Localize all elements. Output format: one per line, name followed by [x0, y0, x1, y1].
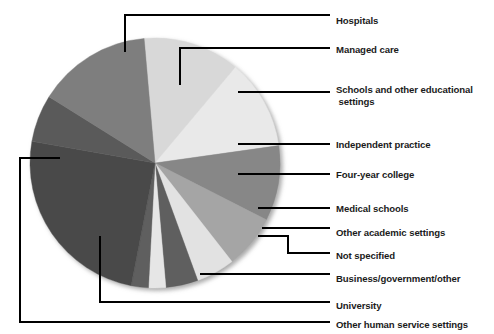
- callout-label-university: University: [336, 300, 381, 312]
- leader-not-specified: [258, 236, 330, 253]
- callout-label-business-government-other: Business/government/other: [336, 273, 460, 285]
- callout-label-managed-care: Managed care: [336, 44, 399, 56]
- callout-label-four-year-college: Four-year college: [336, 169, 414, 181]
- callout-label-other-human-service-settings: Other human service settings: [336, 319, 468, 331]
- callout-label-independent-practice: Independent practice: [336, 139, 431, 151]
- callout-label-medical-schools: Medical schools: [336, 203, 409, 215]
- callout-label-schools-line2: settings: [336, 96, 375, 108]
- pie-slices: [30, 38, 280, 288]
- pie-chart-figure: Hospitals Managed care Schools and other…: [0, 0, 494, 334]
- callout-label-other-academic-settings: Other academic settings: [336, 227, 445, 239]
- callout-label-not-specified: Not specified: [336, 250, 395, 262]
- callout-label-schools: Schools and other educational: [336, 84, 473, 96]
- callout-label-hospitals: Hospitals: [336, 15, 378, 27]
